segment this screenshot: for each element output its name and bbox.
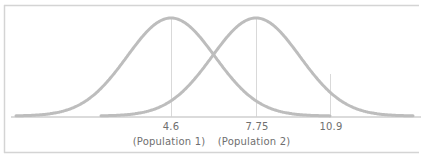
tick-label-4-6: 4.6 xyxy=(163,121,180,132)
normal-distributions-chart xyxy=(0,0,431,157)
tick-label-10-9: 10.9 xyxy=(319,121,342,132)
population-2-label: (Population 2) xyxy=(218,136,291,147)
tick-label-7-75: 7.75 xyxy=(245,121,268,132)
population-1-label: (Population 1) xyxy=(133,136,206,147)
